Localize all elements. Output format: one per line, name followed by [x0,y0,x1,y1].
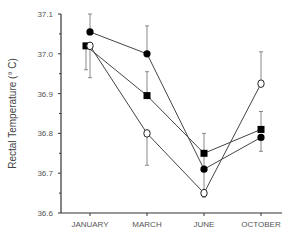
open-circle-marker [201,189,207,197]
y-axis-title-text: Rectal Temperature (° C) [7,58,18,169]
x-axis: JANUARYMARCHJUNEOCTOBER [61,213,282,229]
series-markers [83,28,265,197]
open-circle-marker [258,80,264,88]
filled-square-marker [201,150,208,157]
y-axis-title: Rectal Temperature (° C) [7,58,18,169]
error-bars [84,14,263,197]
filled-circle-marker [86,28,93,35]
y-tick-label: 37.1 [37,10,53,19]
y-tick-label: 36.7 [37,169,53,178]
filled-circle-marker [257,134,264,141]
x-tick-label: OCTOBER [241,220,281,229]
y-tick-label: 37.0 [37,50,53,59]
line-chart: 36.636.736.836.937.037.1 JANUARYMARCHJUN… [0,0,292,238]
filled-square-marker [258,126,265,133]
x-tick-label: JANUARY [71,220,109,229]
y-axis: 36.636.736.836.937.037.1 [37,10,61,218]
filled-circle-marker [200,166,207,173]
open-circle-marker [144,130,150,138]
filled-square-marker [144,92,151,99]
open-circle-marker [87,42,93,50]
y-tick-label: 36.6 [37,209,53,218]
filled-circle-marker [143,50,150,57]
series-line-open-circle [90,46,261,193]
series-line-filled-circle [90,32,261,169]
series-line-filled-square [86,46,261,153]
y-tick-label: 36.8 [37,129,53,138]
series-lines [86,32,261,193]
x-tick-label: JUNE [194,220,215,229]
x-tick-label: MARCH [132,220,162,229]
y-tick-label: 36.9 [37,90,53,99]
